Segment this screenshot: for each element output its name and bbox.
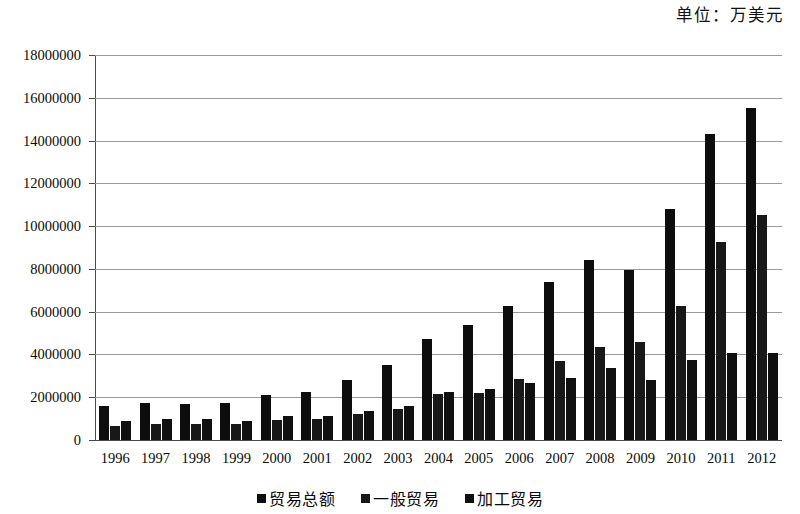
bar [727,353,737,440]
y-axis-tick-label: 12000000 [23,176,81,191]
bar [312,419,322,440]
bar [202,419,212,440]
plot-area [95,55,782,440]
y-axis-tick-label: 18000000 [23,48,81,63]
bar-group [135,55,175,440]
gridline [95,440,782,441]
bar-group [499,55,539,440]
bar [180,404,190,440]
legend-swatch-icon [361,494,370,503]
bar [584,260,594,440]
y-axis-tick-label: 4000000 [30,347,81,362]
bar [110,426,120,440]
bar-group [701,55,741,440]
legend-label: 贸易总额 [269,486,335,510]
x-axis-tick-label: 2005 [459,447,499,471]
y-axis-tick-label: 14000000 [23,133,81,148]
bar-group [418,55,458,440]
bar-group [620,55,660,440]
x-axis-tick-label: 1999 [216,447,256,471]
bar [544,282,554,440]
x-axis-tick-label: 2008 [580,447,620,471]
x-axis-tick-label: 2000 [257,447,297,471]
bar [283,416,293,440]
bar [422,339,432,440]
bar-group [297,55,337,440]
bar [140,403,150,440]
y-axis-tick-label: 16000000 [23,91,81,106]
legend-swatch-icon [465,494,474,503]
bar [220,403,230,440]
bar-group [378,55,418,440]
bar [595,347,605,440]
x-axis-tick-label: 2009 [620,447,660,471]
unit-caption: 单位：万美元 [676,2,784,26]
bar [687,360,697,440]
bar [665,209,675,440]
bar [746,108,756,440]
chart-legend: 贸易总额一般贸易加工贸易 [0,486,800,510]
bar [485,389,495,440]
bar [474,393,484,440]
x-axis-tick-label: 1998 [176,447,216,471]
x-axis-tick-label: 1996 [95,447,135,471]
bar [646,380,656,440]
bar [151,424,161,440]
bar-chart: 单位：万美元 180000001600000014000000120000001… [0,0,800,514]
bar [676,306,686,440]
bar [635,342,645,440]
bar [121,421,131,440]
legend-item[interactable]: 加工贸易 [465,486,543,510]
bar [705,134,715,440]
y-axis-tick-label: 0 [74,433,81,448]
bar-group [257,55,297,440]
y-axis-tick-label: 6000000 [30,304,81,319]
bar-group [216,55,256,440]
bar [162,419,172,440]
bar [514,379,524,440]
bar [301,392,311,440]
y-axis-tick-label: 10000000 [23,219,81,234]
x-axis-tick-label: 2003 [378,447,418,471]
bar-group [176,55,216,440]
bar-groups [95,55,782,440]
x-axis-labels: 1996199719981999200020012002200320042005… [95,447,782,471]
bar-group [580,55,620,440]
legend-swatch-icon [257,494,266,503]
bar [342,380,352,440]
bar [624,270,634,440]
x-axis-tick-label: 2010 [661,447,701,471]
bar-group [337,55,377,440]
bar [382,365,392,440]
bar [433,394,443,440]
bar [261,395,271,440]
bar [393,409,403,440]
bar [768,353,778,440]
legend-item[interactable]: 一般贸易 [361,486,439,510]
bar [231,424,241,440]
legend-item[interactable]: 贸易总额 [257,486,335,510]
bar-group [459,55,499,440]
y-axis-labels: 1800000016000000140000001200000010000000… [0,0,95,514]
legend-label: 加工贸易 [477,486,543,510]
y-axis-tick-label: 8000000 [30,262,81,277]
x-axis-tick-label: 2002 [337,447,377,471]
x-axis-tick-label: 1997 [135,447,175,471]
bar [757,215,767,440]
y-axis-tick-label: 2000000 [30,390,81,405]
bar [444,392,454,440]
bar [323,416,333,440]
bar [364,411,374,440]
bar-group [742,55,782,440]
bar [191,424,201,440]
bar [272,420,282,440]
x-axis-tick-label: 2001 [297,447,337,471]
bar [566,378,576,440]
x-axis-tick-label: 2011 [701,447,741,471]
bar [716,242,726,440]
legend-label: 一般贸易 [373,486,439,510]
bar [555,361,565,440]
x-axis-tick-label: 2006 [499,447,539,471]
bar-group [95,55,135,440]
bar [606,368,616,440]
